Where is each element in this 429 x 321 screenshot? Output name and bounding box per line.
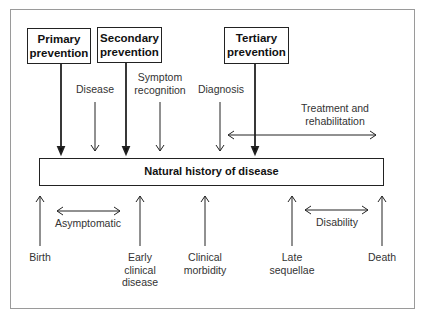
thin-down-arrows <box>91 102 224 151</box>
early-line3: disease <box>118 276 162 289</box>
disability-label: Disability <box>308 216 366 229</box>
symptom-recognition-label: Symptom recognition <box>133 71 187 96</box>
asymptomatic-label: Asymptomatic <box>53 217 123 230</box>
symptom-line1: Symptom <box>133 71 187 84</box>
primary-arrow <box>58 63 64 154</box>
early-clinical-disease-label: Early clinical disease <box>118 251 162 289</box>
treatment-line2: rehabilitation <box>290 115 380 128</box>
birth-label: Birth <box>22 251 58 264</box>
natural-history-box: Natural history of disease <box>39 158 384 186</box>
treatment-line1: Treatment and <box>290 102 380 115</box>
asymptomatic-double-arrow <box>57 207 120 215</box>
tertiary-label-line1: Tertiary <box>225 31 288 45</box>
late-line2: sequellae <box>267 264 317 277</box>
symptom-line2: recognition <box>133 84 187 97</box>
treatment-rehabilitation-label: Treatment and rehabilitation <box>290 102 380 127</box>
disability-double-arrow <box>305 206 368 214</box>
clinical-line2: morbidity <box>180 264 230 277</box>
early-line2: clinical <box>118 264 162 277</box>
secondary-prevention-box: Secondary prevention <box>97 27 162 63</box>
death-label: Death <box>360 251 404 264</box>
primary-label-line2: prevention <box>28 46 90 60</box>
late-line1: Late <box>267 251 317 264</box>
treatment-double-arrow <box>228 131 376 139</box>
secondary-arrow <box>123 62 129 154</box>
diagnosis-label: Diagnosis <box>196 83 246 96</box>
clinical-morbidity-label: Clinical morbidity <box>180 251 230 276</box>
late-sequellae-label: Late sequellae <box>267 251 317 276</box>
tertiary-arrow <box>252 63 258 154</box>
early-line1: Early <box>118 251 162 264</box>
secondary-label-line2: prevention <box>98 45 161 59</box>
primary-prevention-box: Primary prevention <box>27 28 91 64</box>
primary-label-line1: Primary <box>28 32 90 46</box>
tertiary-label-line2: prevention <box>225 45 288 59</box>
disease-label: Disease <box>72 83 118 96</box>
clinical-line1: Clinical <box>180 251 230 264</box>
secondary-label-line1: Secondary <box>98 31 161 45</box>
tertiary-prevention-box: Tertiary prevention <box>224 27 289 64</box>
